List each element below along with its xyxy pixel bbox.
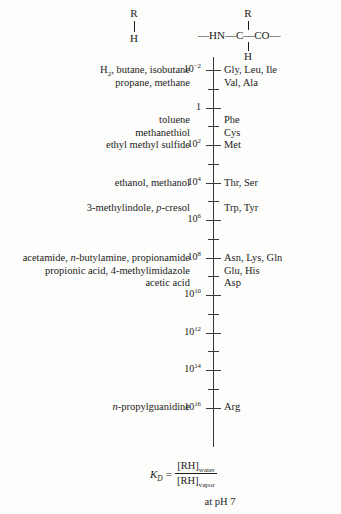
axis-tick-label-text: 1012 — [139, 327, 201, 337]
axis-tick-major — [206, 145, 221, 146]
amino-acid-label-line: Asn, Lys, Gln — [224, 252, 282, 265]
hydrophobicity-scale-figure: R H R —HN—C—CO— H 10−2110210410610810101… — [0, 0, 341, 514]
amino-acid-group-charged-polar: Asn, Lys, GlnGlu, HisAsp — [224, 252, 282, 290]
compound-label-line: toluene — [0, 114, 190, 127]
equation-fraction: [RH]water [RH]vapor — [175, 460, 217, 488]
structure-right-backbone: —HN—C—CO— — [198, 30, 341, 42]
structure-right-bottom-bond-row — [198, 42, 341, 51]
structure-left-bottom-atom: H — [104, 33, 164, 45]
structure-right-top-atom: R — [242, 8, 254, 20]
structure-right-bottom-atom: H — [242, 51, 254, 63]
amino-acid-label-line: Phe — [224, 114, 241, 127]
structure-right-top-bond-icon — [248, 21, 249, 30]
compound-label-line: n-propylguanidine — [0, 401, 190, 414]
amino-acid-group-nonpolar: Gly, Leu, IleVal, Ala — [224, 64, 277, 89]
axis-tick-minor — [208, 89, 219, 90]
structure-right-top-row: R — [198, 8, 341, 21]
axis-tick-minor — [208, 126, 219, 127]
compound-label-line: acetic acid — [0, 277, 190, 290]
compound-group-guanidine: n-propylguanidine — [0, 401, 197, 414]
axis-tick-minor — [208, 239, 219, 240]
structure-right-top-bond-row — [198, 21, 341, 30]
axis-tick-major — [206, 108, 221, 109]
structure-right-bottom-row: H — [198, 51, 341, 64]
amino-acid-group-aromatic-sulfur: PheCysMet — [224, 114, 241, 152]
amino-acid-label-line: Thr, Ser — [224, 177, 258, 190]
axis-tick-major — [206, 295, 221, 296]
axis-tick-label-text: 1010 — [139, 289, 201, 299]
equation-denominator-text: [RH] — [177, 475, 199, 486]
amino-acid-group-hydroxyl: Thr, Ser — [224, 177, 258, 190]
axis-tick-minor — [208, 164, 219, 165]
model-compound-structure: R H — [104, 8, 164, 44]
equation-symbol: KD — [150, 468, 163, 480]
axis-tick-minor — [208, 389, 219, 390]
ph-note: at pH 7 — [150, 496, 290, 507]
axis-tick-major — [206, 370, 221, 371]
axis-tick-label-text: 1 — [139, 102, 201, 112]
axis-tick-minor — [208, 314, 219, 315]
axis-tick-minor — [208, 201, 219, 202]
amino-acid-label-line: Gly, Leu, Ile — [224, 64, 277, 77]
axis-tick-major — [206, 258, 221, 259]
amino-acid-label-line: Cys — [224, 127, 241, 140]
compound-group-alcohols: ethanol, methanol — [0, 177, 197, 190]
compound-label-line: methanethiol — [0, 127, 190, 140]
amino-acid-label-line: Met — [224, 139, 241, 152]
axis-tick-label-text: 106 — [139, 214, 201, 224]
structure-right-backbone-text: —HN—C—CO— — [198, 29, 281, 41]
equation-numerator-text: [RH] — [177, 460, 199, 471]
compound-label-line: ethanol, methanol — [0, 177, 190, 190]
amino-acid-label-line: Arg — [224, 401, 240, 414]
axis-tick-minor — [208, 351, 219, 352]
compound-group-indole-cresol: 3-methylindole, p-cresol — [0, 202, 197, 215]
compound-group-aromatics-thiols: toluenemethanethiolethyl methyl sulfide — [0, 114, 197, 152]
equation-equals: = — [166, 468, 172, 480]
amino-acid-label-line: Val, Ala — [224, 77, 277, 90]
equation-denominator: [RH]vapor — [175, 475, 217, 487]
axis-tick-label-text: 1014 — [139, 364, 201, 374]
amino-acid-label-line: Trp, Tyr — [224, 202, 258, 215]
axis-tick-major — [206, 333, 221, 334]
axis-tick-major — [206, 408, 221, 409]
equation-numerator: [RH]water — [175, 460, 216, 472]
structure-left-top-atom: R — [104, 8, 164, 20]
amino-acid-group-trp-tyr: Trp, Tyr — [224, 202, 258, 215]
axis-tick-major — [206, 220, 221, 221]
compound-group-amides-acids: acetamide, n-butylamine, propionamidepro… — [0, 252, 197, 290]
compound-group-alkanes: H2, butane, isobutanepropane, methane — [0, 64, 197, 89]
compound-label-line: 3-methylindole, p-cresol — [0, 202, 190, 215]
equation-symbol-subscript: D — [157, 474, 162, 483]
axis-tick-minor — [208, 276, 219, 277]
structure-left-bond-icon — [134, 21, 135, 32]
axis-tick-major — [206, 183, 221, 184]
amino-acid-group-arginine: Arg — [224, 401, 240, 414]
compound-label-line: ethyl methyl sulfide — [0, 139, 190, 152]
compound-label-line: acetamide, n-butylamine, propionamide — [0, 252, 190, 265]
amino-acid-label-line: Asp — [224, 277, 282, 290]
amino-acid-label-line: Glu, His — [224, 265, 282, 278]
partition-coefficient-equation: KD = [RH]water [RH]vapor — [150, 460, 290, 488]
peptide-backbone-structure: R —HN—C—CO— H — [198, 8, 341, 64]
compound-label-line: propionic acid, 4-methylimidazole — [0, 265, 190, 278]
compound-label-line: H2, butane, isobutane — [0, 64, 190, 77]
equation-denominator-subscript: vapor — [199, 481, 215, 489]
axis-tick-major — [206, 70, 221, 71]
equation-fraction-bar — [175, 473, 217, 474]
compound-label-line: propane, methane — [0, 77, 190, 90]
